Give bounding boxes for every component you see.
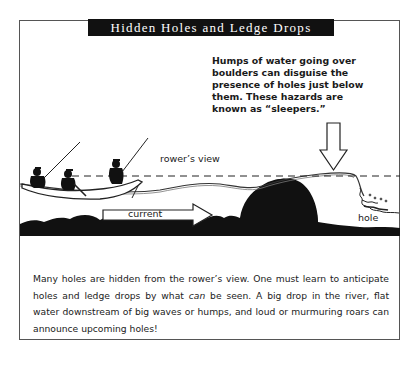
down-arrow bbox=[320, 123, 347, 170]
hole-froth bbox=[360, 188, 399, 213]
callout-line: them. These hazards are bbox=[212, 91, 392, 103]
sleepers-callout: Humps of water going over boulders can d… bbox=[212, 55, 392, 115]
rower bbox=[61, 169, 76, 190]
rowers-view-label: rower’s view bbox=[160, 153, 220, 164]
angler-stern bbox=[30, 167, 46, 188]
callout-line: boulders can disguise the bbox=[212, 67, 392, 79]
hole-label: hole bbox=[358, 212, 378, 223]
callout-line: Humps of water going over bbox=[212, 55, 392, 67]
current-label: current bbox=[128, 208, 162, 219]
fishing-rod-stern bbox=[44, 142, 80, 178]
fishing-rod-bow bbox=[122, 138, 148, 172]
callout-line: known as “sleepers.” bbox=[212, 103, 392, 115]
angler-bow bbox=[109, 159, 124, 184]
caption-emphasis: can bbox=[189, 290, 206, 301]
boulder bbox=[240, 179, 318, 224]
caption-text: Many holes are hidden from the rower’s v… bbox=[33, 271, 389, 337]
callout-line: presence of holes just below bbox=[212, 79, 392, 91]
